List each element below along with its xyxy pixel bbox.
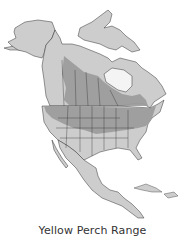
- hispaniola: [164, 192, 178, 198]
- map-caption: Yellow Perch Range: [0, 224, 185, 237]
- north-america-map: [0, 0, 185, 222]
- cuba: [134, 184, 162, 192]
- arctic-islands: [78, 10, 140, 52]
